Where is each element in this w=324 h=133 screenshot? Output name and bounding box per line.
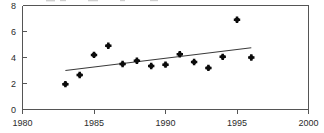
scatter-chart: 8 6 4 2 0 1980 1985 1990 1995 2000 <box>0 0 324 133</box>
data-points <box>62 17 254 88</box>
data-point-core <box>163 62 168 67</box>
data-point-core <box>192 60 197 65</box>
data-point-core <box>63 82 68 87</box>
data-point <box>248 54 254 60</box>
data-point-core <box>249 55 254 60</box>
data-point <box>162 61 168 67</box>
x-axis-ticks <box>23 110 309 114</box>
data-point <box>119 61 125 67</box>
data-point-core <box>106 44 111 49</box>
data-point <box>220 54 226 60</box>
data-point-core <box>178 52 183 57</box>
data-point <box>134 58 140 64</box>
x-tick-label: 2000 <box>298 118 318 128</box>
data-point <box>191 59 197 65</box>
data-point <box>77 72 83 78</box>
data-point-core <box>206 66 211 71</box>
data-point <box>91 52 97 58</box>
x-tick-label: 1985 <box>84 118 104 128</box>
data-point-core <box>235 18 240 23</box>
y-axis-ticks <box>23 6 27 110</box>
data-point <box>105 43 111 49</box>
data-point-core <box>120 62 125 67</box>
data-point <box>234 17 240 23</box>
axis-frame <box>23 6 309 110</box>
data-point-core <box>135 58 140 63</box>
y-tick-label: 0 <box>11 105 16 115</box>
data-point <box>148 63 154 69</box>
data-point-core <box>149 64 154 69</box>
y-tick-label: 8 <box>11 1 16 11</box>
y-tick-labels: 8 6 4 2 0 <box>11 1 16 115</box>
data-point <box>62 81 68 87</box>
x-tick-label: 1990 <box>155 118 175 128</box>
x-tick-labels: 1980 1985 1990 1995 2000 <box>12 118 318 128</box>
data-point-core <box>77 73 82 78</box>
data-point-core <box>92 53 97 58</box>
plot-area: 8 6 4 2 0 1980 1985 1990 1995 2000 <box>0 0 324 133</box>
y-tick-label: 2 <box>11 79 16 89</box>
x-tick-label: 1980 <box>12 118 32 128</box>
x-tick-label: 1995 <box>227 118 247 128</box>
y-tick-label: 6 <box>11 27 16 37</box>
top-cropped-text-artifacts <box>46 0 158 1</box>
data-point-core <box>220 55 225 60</box>
data-point <box>205 65 211 71</box>
y-tick-label: 4 <box>11 53 16 63</box>
